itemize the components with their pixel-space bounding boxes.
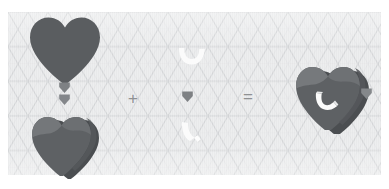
pin-marker-3[interactable] <box>181 89 194 107</box>
plus-operator: + <box>128 90 138 107</box>
equals-operator: = <box>243 88 253 105</box>
crescent-flat-shape[interactable] <box>176 46 208 70</box>
heart-extruded-shape[interactable] <box>30 100 114 180</box>
pin-marker-4[interactable] <box>360 86 373 104</box>
scene-canvas: + = <box>0 0 389 189</box>
heart-flat-shape[interactable] <box>28 16 102 86</box>
crescent-extruded-shape[interactable] <box>179 120 211 148</box>
pin-marker-2[interactable] <box>58 92 71 110</box>
